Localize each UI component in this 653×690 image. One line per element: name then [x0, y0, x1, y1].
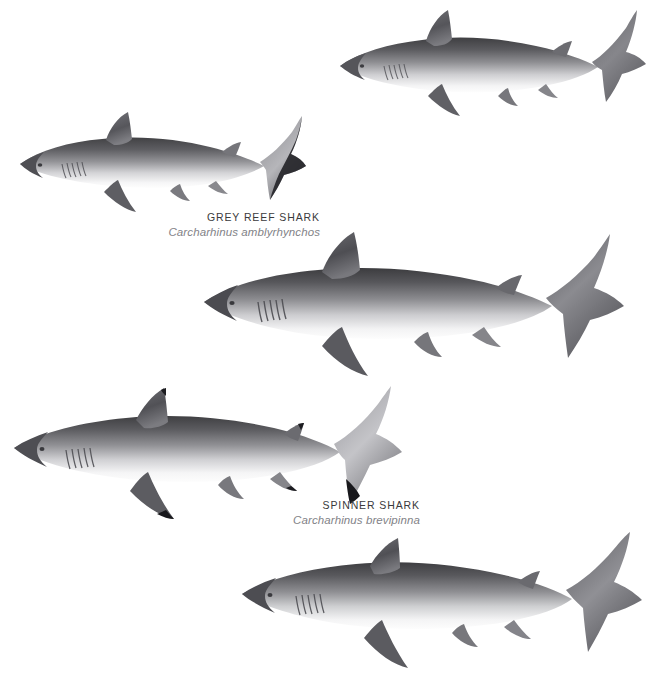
shark-identification-plate: SILVERTIP SHARK Carcharhinus albimargina… [0, 0, 653, 690]
species-label-silky: SILKY SHARK Carcharinus falciformis [472, 634, 653, 660]
species-label-bronze-whaler: BRONZE WHALER Carcharhinus brachyurus [392, 350, 653, 376]
common-name-bronze-whaler: BRONZE WHALER [392, 350, 653, 361]
species-entry-grey-reef: GREY REEF SHARK Carcharhinus amblyrhynch… [14, 112, 306, 217]
common-name-spinner: SPINNER SHARK [8, 500, 420, 511]
scientific-name-bronze-whaler: Carcharhinus brachyurus [392, 365, 653, 377]
grey-reef-shark-illustration [14, 112, 306, 217]
common-name-silky: SILKY SHARK [472, 634, 653, 645]
scientific-name-silky: Carcharinus falciformis [472, 649, 653, 661]
species-entry-spinner: SPINNER SHARK Carcharhinus brevipinna [8, 386, 408, 532]
silvertip-shark-illustration [330, 8, 650, 120]
species-entry-bronze-whaler: BRONZE WHALER Carcharhinus brachyurus [196, 232, 636, 384]
scientific-name-spinner: Carcharhinus brevipinna [8, 515, 420, 527]
species-label-spinner: SPINNER SHARK Carcharhinus brevipinna [8, 500, 420, 526]
common-name-grey-reef: GREY REEF SHARK [14, 212, 320, 223]
species-entry-silky: SILKY SHARK Carcharinus falciformis [236, 532, 648, 670]
species-entry-silvertip: SILVERTIP SHARK Carcharhinus albimargina… [330, 8, 650, 120]
